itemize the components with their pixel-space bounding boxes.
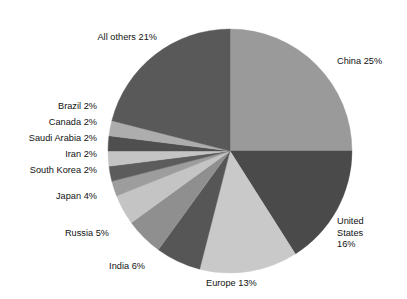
pie-chart: All others 21% China 25% United States 1… (0, 0, 407, 299)
pie-label-india: India 6% (109, 261, 145, 273)
pie-label-brazil: Brazil 2% (58, 101, 97, 113)
pie-label-europe: Europe 13% (206, 278, 257, 290)
pie-label-south-korea: South Korea 2% (30, 165, 97, 177)
pie-label-united-states-line2: States (337, 228, 363, 238)
pie-slice-china (230, 29, 352, 151)
pie-slice-group (108, 29, 352, 273)
pie-label-united-states: United States 16% (337, 216, 397, 251)
pie-label-canada: Canada 2% (49, 117, 97, 129)
pie-label-all-others: All others 21% (97, 32, 157, 44)
pie-label-saudi-arabia: Saudi Arabia 2% (29, 133, 97, 145)
pie-label-iran: Iran 2% (65, 149, 97, 161)
pie-label-china: China 25% (337, 56, 382, 68)
pie-label-japan: Japan 4% (56, 191, 97, 203)
pie-label-united-states-line1: United (337, 216, 364, 226)
pie-label-united-states-line3: 16% (337, 239, 355, 249)
pie-label-russia: Russia 5% (65, 228, 109, 240)
pie-chart-svg (0, 0, 407, 299)
